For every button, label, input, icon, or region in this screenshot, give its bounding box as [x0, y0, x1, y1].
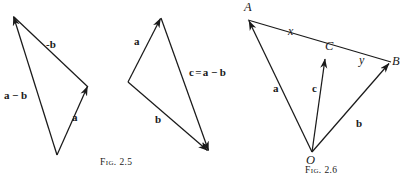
- caption-fig-2-5-text: Fig. 2.5: [100, 157, 133, 167]
- figure-plate: -b a − b a Fig. 2.5 a b c = a − b A B C …: [0, 0, 407, 182]
- label-a-right: a: [273, 83, 279, 94]
- caption-fig-2-6: Fig. 2.6: [305, 166, 338, 176]
- point-label-a: A: [244, 1, 252, 14]
- label-b-middle: b: [155, 114, 161, 125]
- point-label-b: B: [392, 55, 400, 68]
- point-label-c: C: [325, 40, 333, 53]
- vector-a-arrow-middle: [128, 19, 161, 83]
- label-a: a: [72, 112, 78, 123]
- vector-b-arrow-right: [312, 64, 389, 153]
- label-a-middle: a: [134, 36, 140, 47]
- figure-vector-diagrams: [0, 0, 407, 182]
- label-minus-b: -b: [46, 39, 56, 50]
- label-x: x: [288, 25, 293, 37]
- label-c-equals-a-minus-b: c = a − b: [189, 67, 226, 78]
- caption-fig-2-5: Fig. 2.5: [100, 158, 133, 168]
- fig-2-5-middle-diagram: [128, 18, 209, 151]
- label-b-right: b: [356, 118, 362, 129]
- fig-2-6-diagram: [248, 20, 391, 152]
- caption-fig-2-6-text: Fig. 2.6: [305, 165, 338, 175]
- label-y: y: [359, 54, 364, 66]
- segment-a-to-b: [248, 20, 391, 62]
- vector-c-arrow-right: [312, 59, 325, 152]
- label-c-right: c: [312, 83, 317, 94]
- vector-a-arrow-right: [249, 21, 312, 152]
- label-a-minus-b: a − b: [4, 90, 27, 101]
